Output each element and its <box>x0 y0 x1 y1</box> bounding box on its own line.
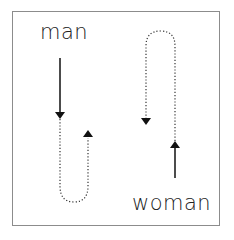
arrowhead-down-icon <box>55 112 65 119</box>
man-dotted-u-path <box>60 119 93 202</box>
woman-dotted-n-path <box>141 31 175 141</box>
arrowhead-up-icon <box>170 141 180 148</box>
label-woman: woman <box>132 193 211 214</box>
label-man: man <box>40 22 88 43</box>
arrowhead-down-icon <box>141 118 151 125</box>
woman-solid-arrow <box>170 141 180 178</box>
arrowhead-up-icon <box>83 130 93 137</box>
man-solid-arrow <box>55 58 65 119</box>
